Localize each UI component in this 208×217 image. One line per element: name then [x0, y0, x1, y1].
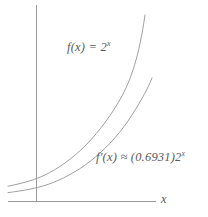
curve-f-prime-of-x — [8, 78, 152, 193]
x-axis-label: x — [161, 192, 167, 207]
derivative-label: f′(x) ≈ (0.6931)2x — [96, 151, 185, 164]
derivative-label-base: f′(x) ≈ (0.6931)2 — [96, 150, 182, 164]
function-label: f(x) = 2x — [67, 41, 111, 54]
function-label-base: f(x) = 2 — [67, 40, 107, 54]
derivative-label-exponent: x — [182, 149, 186, 158]
exponential-function-figure: f(x) = 2x f′(x) ≈ (0.6931)2x x — [0, 0, 208, 217]
figure-canvas — [0, 0, 208, 217]
function-label-exponent: x — [107, 39, 111, 48]
